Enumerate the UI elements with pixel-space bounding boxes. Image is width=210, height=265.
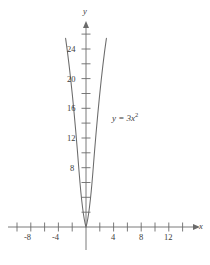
y-axis-arrowhead <box>83 21 89 28</box>
curve-equation-base: y = 3x <box>112 113 135 123</box>
y-tick-label-16: 16 <box>67 104 76 113</box>
y-tick-label-24: 24 <box>67 45 76 54</box>
curve-equation-exponent: 2 <box>135 111 138 118</box>
x-tick-label-12: 12 <box>164 233 173 242</box>
x-tick-label-8: 8 <box>139 233 143 242</box>
y-axis-label: y <box>83 7 87 16</box>
y-tick-label-8: 8 <box>70 164 74 173</box>
x-tick-label--4: -4 <box>52 233 59 242</box>
x-tick-label--8: -8 <box>24 233 31 242</box>
y-tick-label-12: 12 <box>67 134 76 143</box>
parabola-figure: -8 -4 4 8 12 8 12 16 20 24 y x y = 3x2 <box>0 0 210 265</box>
curve-equation-label: y = 3x2 <box>112 114 138 123</box>
x-tick-label-4: 4 <box>111 233 115 242</box>
y-tick-label-20: 20 <box>67 75 76 84</box>
plot-canvas <box>0 0 210 265</box>
x-axis-label: x <box>199 222 203 231</box>
